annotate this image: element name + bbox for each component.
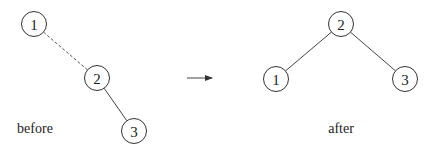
node-label: 2 xyxy=(337,17,345,33)
node-label: 2 xyxy=(93,71,101,87)
after-edge-2-1 xyxy=(286,32,332,71)
node-label: 3 xyxy=(401,72,409,88)
node-label: 1 xyxy=(30,17,38,33)
before-panel: 1 2 3 before xyxy=(17,12,146,144)
before-edge-2-3 xyxy=(104,88,127,121)
node-label: 1 xyxy=(272,72,280,88)
diagram-canvas: 1 2 3 before 2 1 xyxy=(0,0,439,151)
before-edge-1-2 xyxy=(43,32,87,70)
before-node-2: 2 xyxy=(85,66,110,91)
before-node-3: 3 xyxy=(122,119,147,144)
node-label: 3 xyxy=(130,124,138,140)
after-edge-2-3 xyxy=(350,32,395,71)
after-node-3: 3 xyxy=(393,67,418,92)
after-panel: 2 1 3 after xyxy=(264,12,418,137)
before-node-1: 1 xyxy=(22,12,47,37)
after-node-2: 2 xyxy=(329,12,354,37)
before-caption: before xyxy=(17,121,53,136)
after-node-1: 1 xyxy=(264,67,289,92)
after-caption: after xyxy=(328,121,354,136)
tree-rotation-diagram: 1 2 3 before 2 1 xyxy=(0,0,439,151)
